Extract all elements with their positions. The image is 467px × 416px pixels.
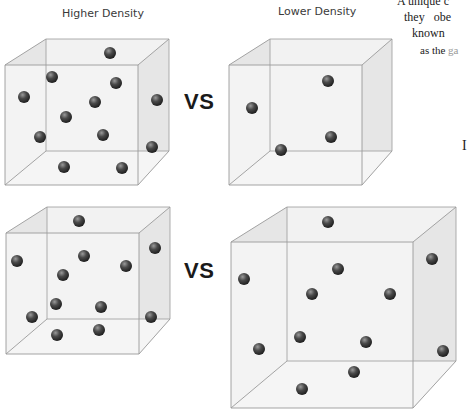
particle-sphere	[437, 345, 449, 357]
cube-bottom-right-lower-density	[231, 207, 456, 408]
particle-sphere	[11, 255, 23, 267]
side-text-line-4: as the ga	[420, 43, 459, 57]
particle-sphere	[275, 144, 287, 156]
cube-front-face	[229, 65, 362, 185]
particle-sphere	[34, 131, 46, 143]
particle-sphere	[50, 298, 62, 310]
particle-sphere	[60, 111, 72, 123]
particle-sphere	[149, 242, 161, 254]
lower-density-label: Lower Density	[278, 5, 356, 18]
particle-sphere	[95, 301, 107, 313]
particle-sphere	[306, 288, 318, 300]
side-text-line-4-a: as the	[420, 44, 448, 56]
side-text-line-4-b: ga	[448, 44, 458, 56]
cube-front-face	[6, 233, 139, 354]
particle-sphere	[384, 288, 396, 300]
particle-sphere	[146, 141, 158, 153]
particle-sphere	[332, 263, 344, 275]
particle-sphere	[104, 47, 116, 59]
particle-sphere	[93, 324, 105, 336]
particle-sphere	[145, 311, 157, 323]
side-text-line-2: they obe	[404, 10, 451, 24]
particle-sphere	[58, 161, 70, 173]
density-diagram	[0, 0, 467, 416]
particle-sphere	[426, 253, 438, 265]
side-text-line-1: A unique c	[397, 0, 449, 8]
particle-sphere	[57, 269, 69, 281]
particle-sphere	[51, 329, 63, 341]
particle-sphere	[26, 311, 38, 323]
higher-density-label: Higher Density	[62, 7, 144, 20]
particle-sphere	[246, 102, 258, 114]
particle-sphere	[120, 260, 132, 272]
particle-sphere	[46, 71, 58, 83]
particle-sphere	[325, 131, 337, 143]
particle-sphere	[78, 250, 90, 262]
particle-sphere	[18, 91, 30, 103]
particle-sphere	[322, 75, 334, 87]
particle-sphere	[253, 343, 265, 355]
particle-sphere	[348, 366, 360, 378]
cube-front-face	[231, 242, 413, 408]
particle-sphere	[238, 273, 250, 285]
particle-sphere	[151, 94, 163, 106]
cube-top-right-lower-density	[229, 39, 392, 185]
side-text-line-3: known	[412, 26, 445, 40]
cube-top-left-higher-density	[5, 39, 169, 185]
vs-label-bottom: VS	[184, 258, 214, 284]
particle-sphere	[360, 336, 372, 348]
particle-sphere	[97, 129, 109, 141]
particle-sphere	[296, 383, 308, 395]
particle-sphere	[322, 216, 334, 228]
particle-sphere	[73, 215, 85, 227]
particle-sphere	[294, 331, 306, 343]
particle-sphere	[89, 96, 101, 108]
cube-bottom-left-higher-density	[6, 207, 170, 354]
side-text-fragment: I	[462, 139, 467, 153]
vs-label-top: VS	[184, 89, 214, 115]
particle-sphere	[116, 162, 128, 174]
particle-sphere	[110, 77, 122, 89]
